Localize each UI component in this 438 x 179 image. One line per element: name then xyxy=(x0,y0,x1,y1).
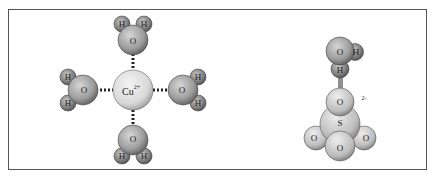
svg-text:O: O xyxy=(311,133,318,143)
svg-text:H: H xyxy=(195,72,202,82)
svg-text:H: H xyxy=(141,19,148,29)
svg-text:H: H xyxy=(119,151,126,161)
svg-text:H: H xyxy=(337,65,344,75)
svg-text:H: H xyxy=(119,19,126,29)
svg-text:O: O xyxy=(337,47,344,57)
svg-text:H: H xyxy=(353,47,360,57)
sulfate-water-complex: O H H O S O O O 2- xyxy=(304,37,376,161)
water-molecule-top: H H O xyxy=(114,16,152,55)
svg-text:O: O xyxy=(130,36,137,46)
hydrogen-bond xyxy=(338,77,343,87)
svg-text:O: O xyxy=(363,133,370,143)
water-molecule-left: H H O xyxy=(60,69,98,111)
svg-text:O: O xyxy=(337,143,344,153)
sulfate-charge: 2- xyxy=(362,95,367,101)
svg-text:O: O xyxy=(81,85,88,95)
svg-text:O: O xyxy=(179,85,186,95)
copper-hydration-complex: H H O H H O H H O H H O xyxy=(60,16,206,164)
svg-text:H: H xyxy=(65,98,72,108)
svg-text:H: H xyxy=(141,151,148,161)
water-molecule: O H H xyxy=(326,37,364,78)
svg-text:S: S xyxy=(337,118,342,128)
svg-text:O: O xyxy=(337,97,344,107)
hydration-diagram: H H O H H O H H O H H O xyxy=(0,0,438,179)
copper-ion: Cu2+ xyxy=(113,70,153,110)
water-molecule-bottom: H H O xyxy=(114,125,152,164)
water-molecule-right: H H O xyxy=(168,69,206,111)
svg-text:O: O xyxy=(130,134,137,144)
svg-text:H: H xyxy=(195,98,202,108)
svg-text:H: H xyxy=(65,72,72,82)
sulfate-ion: O S O O O 2- xyxy=(304,88,376,161)
